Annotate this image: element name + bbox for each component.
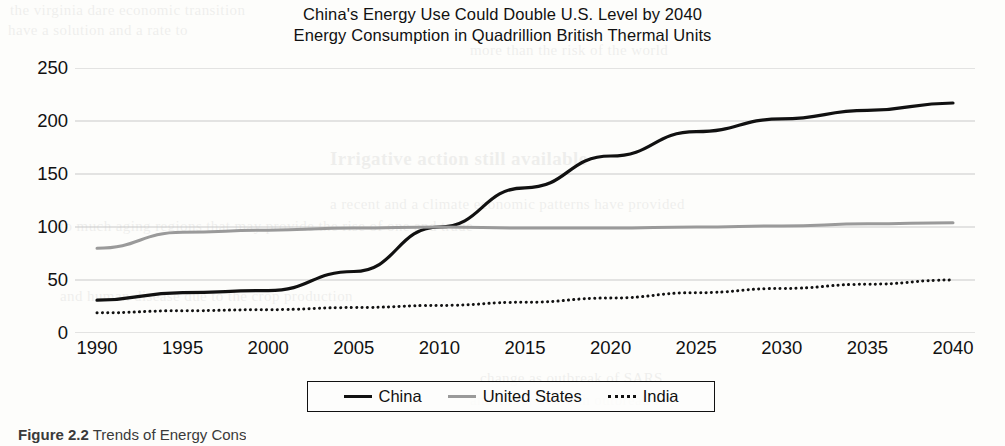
chart-legend: China United States India [307,381,715,412]
legend-item-china[interactable]: China [344,387,422,406]
x-axis-tick-2015: 2015 [504,337,545,359]
x-axis-tick-2040: 2040 [932,337,973,359]
y-axis-tick-150: 150 [37,163,68,185]
x-axis-tick-2000: 2000 [248,337,289,359]
plot-area [75,68,975,333]
y-axis-labels: 050100150200250 [0,68,68,333]
chart-subtitle-line-2: Energy Consumption in Quadrillion Britis… [0,25,1005,46]
chart-title-line-1: China's Energy Use Could Double U.S. Lev… [0,4,1005,25]
legend-item-united-states[interactable]: United States [448,387,582,406]
chart-title-block: China's Energy Use Could Double U.S. Lev… [0,4,1005,46]
line-swatch-china-icon [344,395,372,398]
x-axis-labels: 1990199520002005201020152020202520302035… [75,337,975,367]
line-swatch-india-icon [608,395,636,398]
x-axis-tick-2025: 2025 [676,337,717,359]
data-series [97,103,953,313]
y-axis-tick-200: 200 [37,110,68,132]
series-line-china [97,103,953,300]
legend-item-india[interactable]: India [608,387,679,406]
x-axis-tick-2010: 2010 [419,337,460,359]
y-axis-tick-250: 250 [37,57,68,79]
series-line-india [97,280,953,313]
legend-label-india: India [643,387,679,406]
y-axis-tick-50: 50 [47,269,68,291]
y-axis-tick-100: 100 [37,216,68,238]
chart-plot-svg [75,68,975,333]
figure-caption-text: Trends of Energy Cons [93,426,247,443]
x-axis-tick-1990: 1990 [76,337,117,359]
x-axis-tick-2005: 2005 [333,337,374,359]
y-axis-tick-0: 0 [58,322,68,344]
figure-caption: Figure 2.2 Trends of Energy Cons [18,426,246,446]
x-axis-tick-2035: 2035 [847,337,888,359]
legend-label-china: China [379,387,422,406]
legend-label-united-states: United States [483,387,582,406]
figure-caption-label: Figure 2.2 [18,426,89,443]
x-axis-tick-2020: 2020 [590,337,631,359]
x-axis-tick-2030: 2030 [761,337,802,359]
x-axis-tick-1995: 1995 [162,337,203,359]
line-swatch-united-states-icon [448,395,476,398]
